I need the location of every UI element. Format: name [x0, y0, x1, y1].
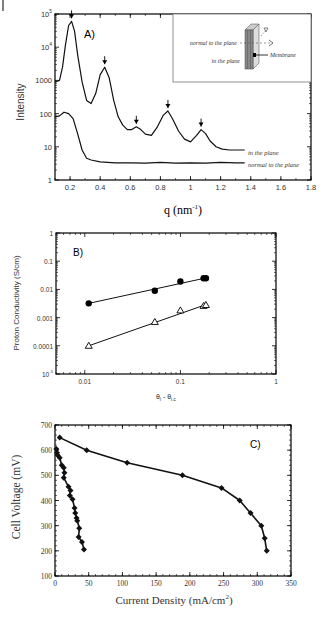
peak-arrow-icon: [134, 120, 139, 124]
panel-a-xlabel: q (nm-1): [164, 203, 202, 217]
fit-line: [89, 278, 205, 303]
tick-label: 0.01: [40, 286, 53, 293]
panel-c-curves: [53, 435, 269, 554]
tick-label: 200: [184, 579, 196, 588]
legend-in-the-plane: in the plane: [248, 149, 279, 156]
tick-label: 0.1: [44, 258, 53, 265]
series-line: [55, 112, 245, 163]
tick-label: 10-5: [42, 369, 54, 378]
tick-label: 105: [41, 9, 52, 19]
tick-label: 1000: [35, 76, 52, 85]
tick-label: 150: [151, 579, 163, 588]
data-point-circle: [86, 300, 92, 306]
tick-label: 1: [48, 176, 52, 185]
inset-label-normal: normal to the plane: [190, 40, 237, 46]
panel-b-ylabel: Proton Conductivity (S/cm): [12, 255, 21, 350]
data-point-circle: [152, 287, 158, 293]
tick-label: 100: [39, 110, 52, 119]
data-point-marker: [124, 460, 130, 466]
tick-label: 100: [41, 572, 53, 581]
panel-b-ticks: 0.010.1110-50.00010.0010.010.11: [33, 230, 278, 385]
panel-c-label: C): [250, 439, 261, 450]
tick-label: 0.4: [95, 183, 105, 192]
panel-b-curves: [85, 275, 209, 348]
tick-label: 100: [117, 579, 129, 588]
tick-label: 1.8: [306, 183, 316, 192]
data-point-triangle: [177, 307, 184, 313]
panel-a-label: A): [84, 28, 95, 40]
tick-label: 0.0001: [33, 343, 53, 350]
peak-arrow-icon: [165, 104, 170, 108]
tick-label: 600: [41, 446, 53, 455]
legend-normal-to-the-plane: normal to the plane: [248, 161, 299, 168]
tick-label: 700: [41, 421, 53, 430]
tick-label: 1.6: [276, 183, 286, 192]
tick-label: 300: [252, 579, 264, 588]
tick-label: 350: [285, 579, 297, 588]
inset-label-in-plane: in the plane: [212, 58, 241, 64]
tick-label: 1.4: [246, 183, 256, 192]
panel-b-label: B): [73, 247, 83, 258]
tick-label: 1: [274, 378, 278, 385]
data-point-marker: [179, 472, 185, 478]
data-point-circle: [203, 275, 209, 281]
tick-label: 500: [41, 471, 53, 480]
tick-label: 1: [49, 230, 53, 237]
peak-arrow-icon: [102, 60, 107, 64]
data-point-marker: [61, 475, 67, 481]
data-point-circle: [177, 278, 183, 284]
tick-label: 0.2: [65, 183, 75, 192]
panel-c-polarization-plot: 0501001502002503003501002003004005006007…: [10, 421, 297, 607]
data-point-marker: [264, 548, 270, 554]
tick-label: 50: [85, 579, 93, 588]
tick-label: 104: [41, 42, 52, 52]
tick-label: 1: [188, 183, 192, 192]
fit-line: [89, 305, 205, 346]
panel-a-inset: normal to the plane in the plane Membran…: [173, 14, 311, 82]
panel-a-ylabel: Intensity: [15, 83, 26, 120]
figure-canvas: 0.20.40.60.811.21.41.61.8110100100010410…: [0, 0, 324, 617]
tick-label: 1.2: [215, 183, 225, 192]
data-point-marker: [84, 447, 90, 453]
data-point-marker: [61, 470, 67, 476]
panel-a-xrd-plot: 0.20.40.60.811.21.41.61.8110100100010410…: [15, 9, 316, 217]
data-point-marker: [76, 525, 82, 531]
data-point-marker: [72, 510, 78, 516]
tick-label: 10: [44, 143, 52, 152]
tick-label: 0: [53, 579, 57, 588]
tick-label: 300: [41, 522, 53, 531]
tick-label: 200: [41, 547, 53, 556]
tick-label: 0.6: [125, 183, 135, 192]
tick-label: 250: [218, 579, 230, 588]
inset-label-membrane: Membrane: [269, 52, 296, 58]
tick-label: 400: [41, 497, 53, 506]
panel-c-xlabel: Current Density (mA/cm2): [115, 593, 232, 607]
panel-c-ylabel: Cell Voltage (mV): [10, 455, 23, 540]
data-point-marker: [262, 535, 268, 541]
data-point-marker: [72, 505, 78, 511]
series-line: [60, 438, 267, 551]
tick-label: 0.01: [78, 378, 91, 385]
tick-label: 0.001: [37, 315, 54, 322]
tick-label: 0.1: [176, 378, 185, 385]
data-point-marker: [57, 435, 63, 441]
tick-label: 0.8: [155, 183, 165, 192]
panel-b-conductivity-plot: 0.010.1110-50.00010.0010.010.11 B) Proto…: [12, 230, 278, 402]
peak-arrow-icon: [199, 123, 204, 127]
panel-b-xlabel: θi - θi,c: [156, 393, 177, 402]
data-point-marker: [81, 547, 87, 553]
